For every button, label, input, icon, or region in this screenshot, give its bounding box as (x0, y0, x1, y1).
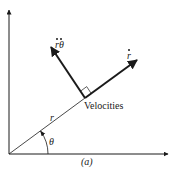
figure-caption: (a) (81, 157, 93, 167)
velocities-label: Velocities (84, 101, 123, 111)
velocity-diagram (0, 0, 176, 172)
theta-arc (41, 131, 49, 154)
radial-velocity-label: r (127, 51, 131, 61)
transverse-velocity-label: rθ (55, 40, 64, 50)
transverse-velocity-arrow (51, 47, 85, 98)
radial-velocity-arrow (85, 60, 137, 98)
radius-label: r (50, 113, 54, 123)
theta-label: θ (49, 137, 54, 147)
